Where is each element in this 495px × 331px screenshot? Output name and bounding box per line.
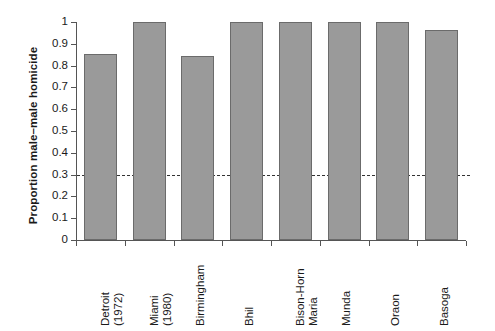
y-tick-mark	[71, 44, 76, 45]
x-tick-label-line: (1980)	[161, 293, 174, 326]
x-tick-label: Miami(1980)	[148, 293, 174, 326]
y-tick-label: 0.2	[20, 190, 68, 202]
y-tick-label-text: 0.6	[26, 103, 68, 115]
y-tick-label-text: 0.2	[26, 190, 68, 202]
y-tick-mark	[71, 153, 76, 154]
bar	[133, 22, 166, 240]
y-tick-label: 1	[20, 16, 68, 28]
y-tick-label: 0.1	[20, 212, 68, 224]
y-tick-label: 0	[20, 234, 68, 246]
x-tick-label-line: (1972)	[112, 292, 125, 326]
x-tick-label: Oraon	[389, 294, 402, 326]
y-tick-label: 0.6	[20, 103, 68, 115]
x-tick-mark	[271, 241, 272, 246]
bar	[181, 56, 214, 240]
x-tick-mark	[466, 241, 467, 246]
x-tick-label-line: Miami	[148, 293, 161, 326]
bar-chart-figure: Proportion male–male homicide 00.10.20.3…	[0, 0, 495, 331]
y-tick-label: 0.8	[20, 60, 68, 72]
y-tick-label-text: 1	[26, 16, 68, 28]
y-tick-label: 0.4	[20, 147, 68, 159]
y-tick-label-text: 0.3	[26, 169, 68, 181]
x-tick-mark	[417, 241, 418, 246]
y-tick-mark	[71, 218, 76, 219]
y-tick-label: 0.7	[20, 81, 68, 93]
y-tick-label-text: 0.9	[26, 38, 68, 50]
y-tick-label-text: 0	[26, 234, 68, 246]
y-axis-line	[76, 22, 77, 241]
x-tick-label-line: Munda	[340, 291, 353, 326]
y-tick-mark	[71, 131, 76, 132]
x-tick-label-line: Birmingham	[194, 265, 207, 326]
x-tick-mark	[222, 241, 223, 246]
y-tick-mark	[71, 109, 76, 110]
x-tick-mark	[320, 241, 321, 246]
x-tick-label-line: Bison-Horn	[294, 268, 307, 326]
x-tick-label-line: Detroit	[99, 292, 112, 326]
x-tick-label-line: Bhil	[243, 307, 256, 326]
y-tick-label-text: 0.8	[26, 60, 68, 72]
y-tick-label: 0.3	[20, 169, 68, 181]
x-tick-mark	[76, 241, 77, 246]
bar	[84, 54, 117, 240]
bar	[425, 30, 458, 240]
y-tick-label: 0.9	[20, 38, 68, 50]
bar	[279, 22, 312, 240]
x-tick-mark	[369, 241, 370, 246]
bar	[230, 22, 263, 240]
y-tick-mark	[71, 196, 76, 197]
x-tick-label-line: Basoga	[438, 287, 451, 326]
x-tick-mark	[125, 241, 126, 246]
x-tick-label: Birmingham	[194, 265, 207, 326]
x-tick-label: Munda	[340, 291, 353, 326]
y-tick-label-text: 0.4	[26, 147, 68, 159]
x-tick-label-line: Maria	[307, 268, 320, 326]
bar	[376, 22, 409, 240]
y-tick-label-text: 0.5	[26, 125, 68, 137]
y-tick-mark	[71, 87, 76, 88]
y-tick-label-text: 0.1	[26, 212, 68, 224]
bar	[328, 22, 361, 240]
y-tick-label-text: 0.7	[26, 81, 68, 93]
x-tick-label-line: Oraon	[389, 294, 402, 326]
x-tick-label: Basoga	[438, 287, 451, 326]
y-tick-mark	[71, 66, 76, 67]
x-tick-label: Bhil	[243, 307, 256, 326]
y-tick-mark	[71, 175, 76, 176]
x-tick-label: Detroit(1972)	[99, 292, 125, 326]
x-tick-label: Bison-HornMaria	[294, 268, 320, 326]
x-tick-mark	[174, 241, 175, 246]
y-tick-mark	[71, 22, 76, 23]
y-tick-label: 0.5	[20, 125, 68, 137]
